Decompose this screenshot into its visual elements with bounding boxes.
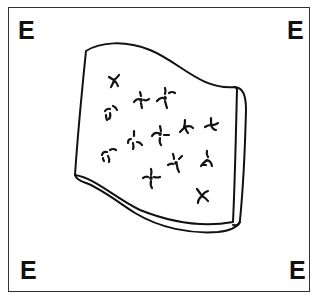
- sheet-marks: [102, 75, 218, 203]
- mark-8: [205, 118, 218, 130]
- mark-6: [152, 126, 169, 145]
- mark-5: [128, 131, 142, 149]
- mark-4: [157, 88, 175, 108]
- mark-11: [201, 151, 212, 166]
- mark-2: [105, 106, 117, 120]
- mark-9: [102, 149, 116, 162]
- mark-3: [134, 92, 149, 108]
- sheet-drawing: [0, 0, 316, 295]
- mark-7: [180, 120, 193, 133]
- mark-10: [168, 154, 182, 172]
- mark-13: [197, 189, 208, 203]
- mark-1: [109, 75, 119, 87]
- mark-12: [143, 169, 160, 188]
